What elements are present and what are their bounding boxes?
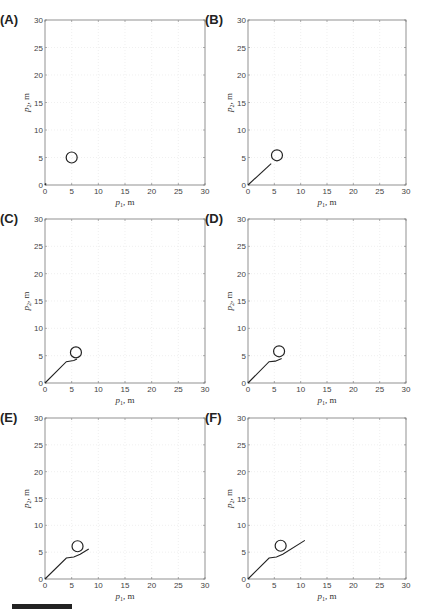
y-tick-label: 5 <box>242 548 247 557</box>
y-tick-label: 10 <box>237 521 246 530</box>
x-tick-label: 5 <box>69 385 74 394</box>
panel-e: 051015202530051015202530p1, mp2, m(E) <box>0 410 210 602</box>
x-axis-label: p1, m <box>114 591 134 602</box>
y-tick-label: 5 <box>39 548 44 557</box>
y-tick-label: 0 <box>39 181 44 190</box>
x-tick-label: 25 <box>174 187 183 196</box>
y-tick-label: 25 <box>237 242 246 251</box>
x-tick-label: 10 <box>94 385 103 394</box>
y-tick-label: 20 <box>237 71 246 80</box>
y-tick-label: 30 <box>237 414 246 423</box>
x-tick-label: 0 <box>246 187 251 196</box>
panel-label: (D) <box>205 211 223 226</box>
y-axis-label: p2, m <box>21 489 32 509</box>
x-tick-label: 15 <box>121 187 130 196</box>
x-axis-label: p1, m <box>316 395 336 406</box>
y-axis-label: p2, m <box>224 489 235 509</box>
y-axis-label: p2, m <box>21 291 32 311</box>
x-axis-label: p1, m <box>316 197 336 208</box>
y-tick-label: 0 <box>242 575 247 584</box>
y-tick-label: 15 <box>34 495 43 504</box>
y-tick-label: 0 <box>242 181 247 190</box>
y-tick-label: 20 <box>237 468 246 477</box>
y-tick-label: 30 <box>34 16 43 25</box>
x-tick-label: 10 <box>296 581 305 590</box>
x-tick-label: 30 <box>201 385 210 394</box>
y-tick-label: 25 <box>237 44 246 53</box>
y-tick-label: 15 <box>34 297 43 306</box>
x-tick-label: 10 <box>296 187 305 196</box>
caption-bar <box>12 604 72 609</box>
x-tick-label: 15 <box>323 385 332 394</box>
x-tick-label: 15 <box>323 581 332 590</box>
panel-f: 051015202530051015202530p1, mp2, m(F) <box>205 410 411 602</box>
x-tick-label: 30 <box>402 187 411 196</box>
y-tick-label: 10 <box>34 126 43 135</box>
y-axis-label: p2, m <box>224 291 235 311</box>
y-tick-label: 15 <box>237 99 246 108</box>
y-tick-label: 25 <box>34 242 43 251</box>
y-tick-label: 25 <box>34 44 43 53</box>
panel-label: (E) <box>0 410 17 425</box>
x-tick-label: 25 <box>375 187 384 196</box>
x-tick-label: 15 <box>121 385 130 394</box>
y-tick-label: 30 <box>237 16 246 25</box>
x-tick-label: 10 <box>94 581 103 590</box>
x-tick-label: 15 <box>121 581 130 590</box>
y-tick-label: 15 <box>237 297 246 306</box>
panel-label: (C) <box>0 211 18 226</box>
y-tick-label: 15 <box>34 99 43 108</box>
x-axis-label: p1, m <box>316 591 336 602</box>
x-tick-label: 0 <box>43 581 48 590</box>
y-tick-label: 5 <box>242 154 247 163</box>
y-tick-label: 20 <box>34 270 43 279</box>
x-tick-label: 20 <box>349 385 358 394</box>
x-axis-label: p1, m <box>114 395 134 406</box>
x-tick-label: 30 <box>402 385 411 394</box>
x-tick-label: 5 <box>272 187 277 196</box>
panel-label: (B) <box>205 12 223 27</box>
panel-a: 051015202530051015202530p1, mp2, m(A) <box>0 12 210 208</box>
panel-b: 051015202530051015202530p1, mp2, m(B) <box>205 12 411 208</box>
y-tick-label: 30 <box>237 215 246 224</box>
panel-d: 051015202530051015202530p1, mp2, m(D) <box>205 211 411 406</box>
x-tick-label: 30 <box>201 187 210 196</box>
x-tick-label: 20 <box>147 385 156 394</box>
x-tick-label: 25 <box>174 581 183 590</box>
y-tick-label: 0 <box>39 379 44 388</box>
panel-label: (F) <box>205 410 222 425</box>
x-tick-label: 20 <box>147 187 156 196</box>
x-tick-label: 5 <box>272 385 277 394</box>
panel-label: (A) <box>0 12 18 27</box>
x-tick-label: 0 <box>246 385 251 394</box>
y-tick-label: 0 <box>242 379 247 388</box>
y-axis-label: p2, m <box>224 93 235 113</box>
x-tick-label: 30 <box>402 581 411 590</box>
x-tick-label: 5 <box>69 581 74 590</box>
y-tick-label: 10 <box>34 521 43 530</box>
x-tick-label: 10 <box>296 385 305 394</box>
x-tick-label: 20 <box>349 187 358 196</box>
y-tick-label: 25 <box>34 441 43 450</box>
figure-canvas: 051015202530051015202530p1, mp2, m(A)051… <box>0 0 422 609</box>
y-tick-label: 30 <box>34 215 43 224</box>
x-tick-label: 5 <box>272 581 277 590</box>
x-tick-label: 25 <box>375 385 384 394</box>
x-tick-label: 5 <box>69 187 74 196</box>
x-tick-label: 0 <box>43 385 48 394</box>
y-tick-label: 25 <box>237 441 246 450</box>
x-tick-label: 15 <box>323 187 332 196</box>
y-tick-label: 15 <box>237 495 246 504</box>
x-tick-label: 0 <box>43 187 48 196</box>
x-tick-label: 0 <box>246 581 251 590</box>
y-tick-label: 20 <box>237 270 246 279</box>
panel-c: 051015202530051015202530p1, mp2, m(C) <box>0 211 210 406</box>
x-tick-label: 20 <box>349 581 358 590</box>
y-tick-label: 20 <box>34 468 43 477</box>
x-tick-label: 25 <box>174 385 183 394</box>
x-tick-label: 25 <box>375 581 384 590</box>
y-tick-label: 5 <box>242 352 247 361</box>
y-tick-label: 0 <box>39 575 44 584</box>
y-tick-label: 20 <box>34 71 43 80</box>
y-tick-label: 30 <box>34 414 43 423</box>
